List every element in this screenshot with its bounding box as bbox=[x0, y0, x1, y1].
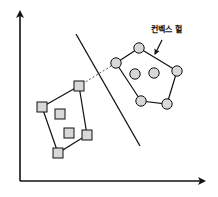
square-hull-vertex-point bbox=[82, 130, 92, 140]
circle-interior-point bbox=[130, 69, 140, 79]
label-pointer-arrow-icon bbox=[155, 40, 162, 54]
circle-hull-vertex-point bbox=[111, 58, 121, 68]
circle-class-convex-hull bbox=[116, 48, 177, 104]
circle-hull-vertex-point bbox=[134, 43, 144, 53]
square-interior-point bbox=[64, 128, 74, 138]
circle-hull-vertex-point bbox=[172, 66, 182, 76]
circle-hull-vertex-point bbox=[136, 96, 146, 106]
square-hull-vertex-point bbox=[74, 81, 84, 91]
circle-hull-vertex-point bbox=[162, 99, 172, 109]
square-interior-point bbox=[55, 109, 65, 119]
convex-hull-diagram: 컨벡스 헐 bbox=[0, 0, 218, 197]
square-hull-vertex-point bbox=[37, 102, 47, 112]
closest-points-dashed-line bbox=[79, 63, 116, 86]
square-class-points bbox=[37, 81, 92, 158]
convex-hull-label: 컨벡스 헐 bbox=[151, 24, 182, 34]
circle-interior-point bbox=[149, 68, 159, 78]
square-hull-vertex-point bbox=[53, 148, 63, 158]
